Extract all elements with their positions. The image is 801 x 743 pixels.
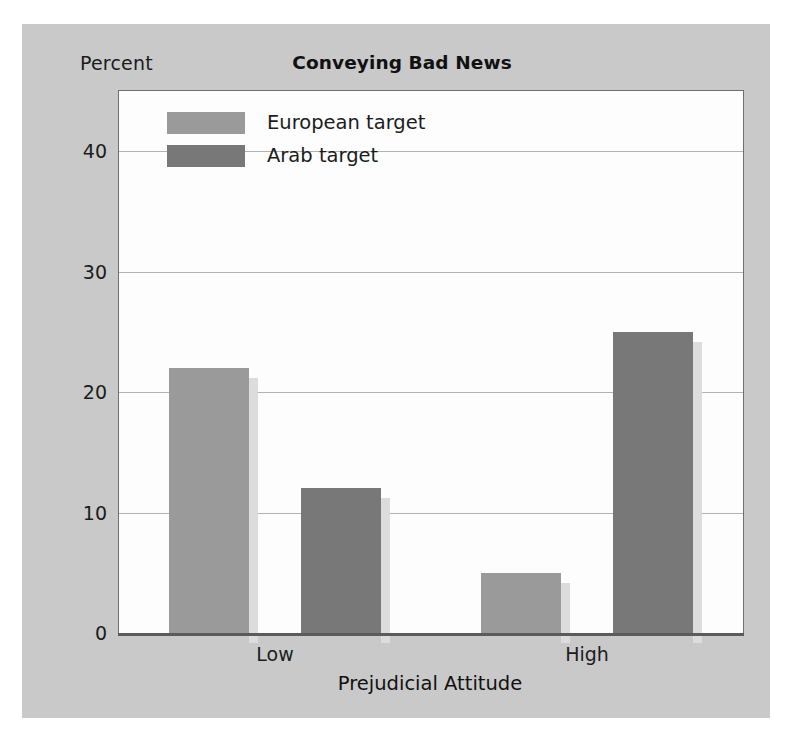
chart-title: Conveying Bad News (140, 52, 664, 73)
y-axis-tick-label: 30 (83, 261, 107, 283)
bar-arab-target-low (301, 488, 381, 633)
bar-body (481, 573, 561, 633)
legend-item: European target (167, 111, 425, 134)
bar-body (169, 368, 249, 633)
legend-item: Arab target (167, 144, 425, 167)
x-axis-line (118, 633, 744, 636)
bar-european-target-high (481, 573, 561, 633)
gridline (119, 272, 743, 273)
bar-body (613, 332, 693, 633)
y-axis-tick-label: 0 (95, 622, 107, 644)
bar-arab-target-high (613, 332, 693, 633)
chart-legend: European target Arab target (167, 111, 425, 177)
bar-shadow (381, 498, 390, 643)
x-axis-category-label-high: High (565, 643, 609, 665)
y-axis-tick-label: 10 (83, 502, 107, 524)
legend-label-arab: Arab target (267, 144, 378, 167)
y-axis-tick-label: 20 (83, 381, 107, 403)
y-axis-tick-label: 40 (83, 140, 107, 162)
bar-body (301, 488, 381, 633)
legend-label-european: European target (267, 111, 425, 134)
x-axis-category-label-low: Low (256, 643, 293, 665)
bar-shadow (693, 342, 702, 643)
plot-area: 010203040 LowHigh European target Arab t… (118, 90, 744, 634)
bar-european-target-low (169, 368, 249, 633)
figure-panel: Percent Conveying Bad News 010203040 Low… (22, 24, 770, 718)
x-axis-title: Prejudicial Attitude (118, 672, 742, 695)
legend-swatch-arab (167, 145, 245, 167)
legend-swatch-european (167, 112, 245, 134)
bar-shadow (249, 378, 258, 643)
